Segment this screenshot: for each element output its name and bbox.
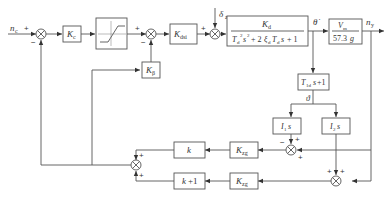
svg-text:s: s <box>313 78 316 87</box>
svg-text:zg: zg <box>242 181 248 187</box>
svg-text:+ 1: + 1 <box>287 35 298 44</box>
svg-text:+: + <box>298 153 303 162</box>
svg-text:57.3: 57.3 <box>333 34 347 43</box>
svg-text:−: − <box>31 38 36 47</box>
svg-text:δ: δ <box>219 9 224 19</box>
block-kc: K c <box>63 26 81 42</box>
summing-junction-6: + + <box>131 151 144 180</box>
block-k-plus-1: k +1 <box>174 173 205 189</box>
svg-text:s: s <box>337 122 340 131</box>
input-signal-nc: n c + <box>8 23 36 34</box>
block-plant-transfer-function: K d T d 2 s 2 + 2 ξ d T d s + 1 <box>227 16 308 46</box>
svg-text:dsi: dsi <box>180 34 187 40</box>
svg-text:+1: +1 <box>317 78 326 87</box>
svg-text:+: + <box>295 135 300 144</box>
block-vm-over-57-3g: V m 57.3 g <box>329 19 362 44</box>
svg-text:+ 2: + 2 <box>251 35 262 44</box>
svg-text:+: + <box>135 24 140 33</box>
summing-junction-1: − <box>31 29 46 47</box>
svg-text:β: β <box>152 70 155 76</box>
svg-text:+: + <box>327 167 332 176</box>
svg-text:m: m <box>343 26 347 31</box>
block-kzg-upper: K zg <box>230 142 258 158</box>
svg-text:+: + <box>139 151 144 160</box>
svg-text:c: c <box>73 34 76 40</box>
svg-text:+: + <box>24 24 29 33</box>
block-kzg-lower: K zg <box>230 173 258 189</box>
block-k: k <box>174 142 205 158</box>
svg-text:s: s <box>243 35 246 44</box>
svg-text:c: c <box>15 28 18 34</box>
svg-text:d: d <box>268 24 271 30</box>
svg-text:1d: 1d <box>306 83 312 88</box>
summing-junction-4: − + + <box>280 135 303 162</box>
block-diagram: n c + − K c + − K dsi <box>0 0 386 198</box>
svg-text:zg: zg <box>242 150 248 156</box>
block-i1s: I 1 s <box>273 118 301 134</box>
block-i2s: I 2 s <box>322 118 350 134</box>
svg-text:+: + <box>139 171 144 180</box>
block-saturation-limiter <box>96 18 127 49</box>
svg-text:s: s <box>281 35 284 44</box>
signal-theta-dot: θ̇ <box>313 17 320 27</box>
summing-junction-2: + − <box>135 24 156 47</box>
svg-text:y: y <box>371 22 374 28</box>
block-kbeta: K β <box>142 62 160 78</box>
svg-text:g: g <box>350 34 354 43</box>
block-kdsi: K dsi <box>170 24 197 44</box>
block-t1d-s-plus-1: T 1d s +1 <box>298 74 329 90</box>
svg-text:+1: +1 <box>188 176 198 186</box>
svg-text:s: s <box>288 122 291 131</box>
svg-text:−: − <box>141 38 146 47</box>
disturbance-delta-z: δ z <box>215 8 228 28</box>
summing-junction-3: + <box>201 24 220 39</box>
svg-text:+: + <box>201 24 206 33</box>
svg-text:−: − <box>280 138 285 147</box>
svg-text:+: + <box>340 167 345 176</box>
signal-theta: ϑ <box>306 94 311 103</box>
